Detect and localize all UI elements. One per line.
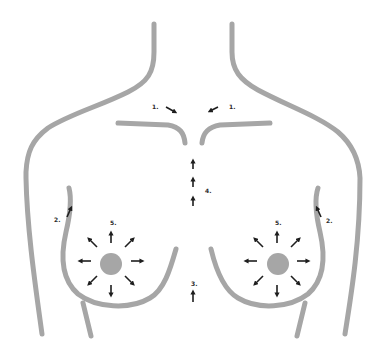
- radial-arrow-downright-icon: [125, 276, 133, 284]
- label-armpit-left: 2.: [54, 217, 60, 223]
- label-sternum: 4.: [205, 188, 211, 194]
- label-clavicle-left: 1.: [152, 104, 158, 110]
- right-nipple: [267, 253, 289, 275]
- left-nipple: [100, 253, 122, 275]
- radial-arrow-upleft-icon: [89, 239, 97, 247]
- radial-arrow-upright-icon: [125, 239, 133, 247]
- right-neck-shoulder-outline: [232, 24, 360, 334]
- left-clavicle: [118, 123, 185, 143]
- label-breast-right: 5.: [275, 220, 281, 226]
- radial-arrow-downleft-icon: [89, 276, 97, 284]
- right-breast-outline: [211, 188, 323, 306]
- clavicle-arrow-right-icon: [210, 107, 218, 111]
- label-armpit-right: 2.: [326, 218, 332, 224]
- label-below-breasts: 3.: [191, 281, 197, 287]
- left-breast-underline: [83, 303, 91, 336]
- left-neck-shoulder-outline: [26, 24, 154, 334]
- radial-arrow-downright-icon: [291, 276, 299, 284]
- radial-arrow-downleft-icon: [255, 276, 263, 284]
- right-breast-underline: [297, 303, 305, 336]
- clavicle-arrow-left-icon: [166, 107, 175, 112]
- right-clavicle: [202, 123, 270, 143]
- torso-outline-illustration: [0, 0, 379, 357]
- label-clavicle-right: 1.: [229, 104, 235, 110]
- breast-massage-diagram: 1. 1. 4. 2. 2. 5. 5. 3.: [0, 0, 379, 357]
- label-breast-left: 5.: [110, 220, 116, 226]
- left-breast-outline: [63, 188, 176, 306]
- radial-arrow-upright-icon: [291, 239, 299, 247]
- radial-arrow-upleft-icon: [255, 239, 263, 247]
